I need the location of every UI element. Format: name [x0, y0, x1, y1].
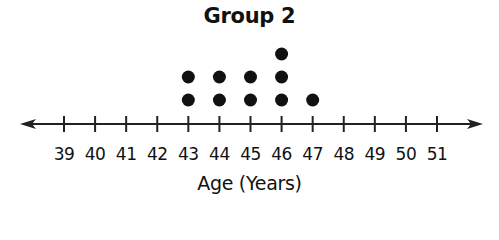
tick-label: 44: [209, 144, 230, 164]
tick-label: 49: [365, 144, 386, 164]
x-axis-label: Age (Years): [0, 172, 499, 194]
data-dot: [213, 94, 226, 107]
tick-label: 43: [178, 144, 199, 164]
tick-label: 51: [427, 144, 448, 164]
tick-label: 40: [85, 144, 106, 164]
data-dot: [306, 94, 319, 107]
data-dot: [182, 94, 195, 107]
tick-label: 45: [240, 144, 261, 164]
data-dot: [244, 71, 257, 84]
tick-label: 42: [147, 144, 168, 164]
tick-label: 39: [54, 144, 75, 164]
data-dot: [275, 71, 288, 84]
data-dots: [182, 48, 319, 107]
data-dot: [244, 94, 257, 107]
tick-label: 47: [302, 144, 323, 164]
data-dot: [182, 71, 195, 84]
tick-label: 41: [116, 144, 137, 164]
tick-label: 48: [333, 144, 354, 164]
data-dot: [275, 94, 288, 107]
tick-label: 50: [396, 144, 417, 164]
tick-label: 46: [271, 144, 292, 164]
axis-tick-labels: 39404142434445464748495051: [54, 144, 448, 164]
data-dot: [275, 48, 288, 61]
data-dot: [213, 71, 226, 84]
